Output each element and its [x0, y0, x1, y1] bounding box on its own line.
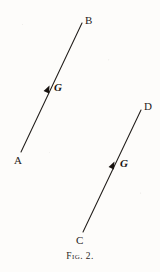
point-label-d: D [144, 101, 152, 112]
vector-label-g-cd: G [120, 158, 128, 169]
line-segment-cd [83, 110, 141, 232]
vector-label-g-ab: G [54, 82, 62, 93]
point-label-b: B [85, 15, 93, 26]
figure-caption: Fig. 2. [0, 251, 160, 261]
line-segment-ab [21, 23, 82, 152]
vector-diagram [0, 0, 160, 272]
point-label-c: C [76, 235, 84, 246]
figure-container: B A D C G G Fig. 2. [0, 0, 160, 272]
point-label-a: A [14, 155, 22, 166]
